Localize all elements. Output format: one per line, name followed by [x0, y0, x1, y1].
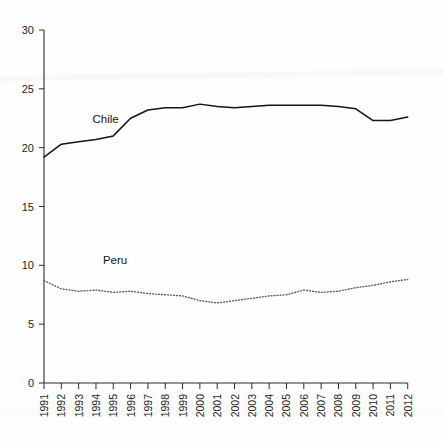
x-axis-tick-label: 1996: [125, 394, 137, 418]
x-axis: 1991199219931994199519961997199819992000…: [38, 383, 414, 417]
x-axis-tick-label: 2003: [246, 394, 258, 418]
x-axis-tick-label: 2011: [384, 394, 396, 417]
x-axis-tick-label: 1999: [177, 394, 189, 418]
x-axis-tick-label: 1995: [107, 394, 119, 418]
x-axis-tick-label: 2000: [194, 394, 206, 418]
x-axis-tick-label: 2005: [280, 394, 292, 418]
x-axis-tick-label: 1991: [38, 394, 50, 418]
x-axis-tick-label: 1998: [159, 394, 171, 418]
y-axis-tick-label: 0: [28, 377, 34, 389]
x-axis-tick-label: 2001: [211, 394, 223, 418]
x-axis-tick-label: 2004: [263, 394, 275, 418]
series-line-peru: [44, 279, 408, 303]
y-axis-tick-label: 15: [22, 201, 34, 213]
y-axis-tick-label: 5: [28, 318, 34, 330]
x-axis-tick-label: 2007: [315, 394, 327, 418]
y-axis-tick-label: 30: [22, 24, 34, 36]
y-axis-tick-label: 20: [22, 142, 34, 154]
x-axis-tick-label: 1993: [73, 394, 85, 418]
x-axis-tick-label: 2009: [350, 394, 362, 418]
series-label-chile: Chile: [92, 113, 118, 125]
series-label-peru: Peru: [103, 254, 127, 266]
x-axis-tick-label: 2010: [367, 394, 379, 418]
x-axis-tick-label: 1994: [90, 394, 102, 418]
x-axis-tick-label: 2012: [402, 394, 414, 418]
x-axis-tick-label: 1997: [142, 394, 154, 418]
x-axis-tick-label: 2006: [298, 394, 310, 418]
x-axis-tick-label: 2002: [229, 394, 241, 418]
line-chart: 051015202530 199119921993199419951996199…: [0, 0, 443, 443]
y-axis-tick-label: 25: [22, 83, 34, 95]
x-axis-tick-label: 2008: [332, 394, 344, 418]
y-axis-tick-label: 10: [22, 259, 34, 271]
chart-canvas: 051015202530 199119921993199419951996199…: [0, 0, 443, 443]
x-axis-tick-label: 1992: [55, 394, 67, 418]
y-axis: 051015202530: [22, 24, 44, 389]
series-lines: [44, 104, 408, 303]
